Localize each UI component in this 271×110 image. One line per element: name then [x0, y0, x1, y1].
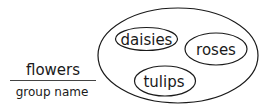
member-label-roses: roses — [196, 41, 236, 59]
group-diagram: flowers group name daisies roses tulips — [0, 0, 271, 110]
group-name-label: flowers — [26, 61, 80, 79]
member-label-tulips: tulips — [143, 73, 184, 91]
member-label-daisies: daisies — [121, 31, 173, 49]
group-caption-label: group name — [16, 85, 89, 99]
